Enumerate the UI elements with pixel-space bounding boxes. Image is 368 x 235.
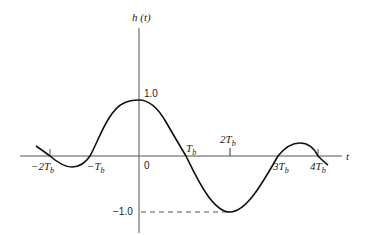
x-tick-label-tb: Tb — [186, 142, 196, 157]
x-axis-label: t — [346, 150, 350, 162]
y-axis-label: h (t) — [132, 11, 151, 24]
y-tick-label-minus-1: −1.0 — [113, 206, 133, 217]
y-tick-label-1: 1.0 — [144, 88, 158, 99]
impulse-response-diagram: h (t) t 1.0 −1.0 −2Tb −Tb 0 Tb 2Tb 3Tb 4… — [0, 0, 368, 235]
x-tick-label-minus-2tb: −2Tb — [31, 160, 54, 175]
x-tick-label-zero: 0 — [144, 160, 150, 171]
x-tick-label-2tb: 2Tb — [220, 133, 236, 148]
x-tick-label-minus-tb: −Tb — [87, 160, 105, 175]
x-tick-label-4tb: 4Tb — [310, 160, 326, 175]
x-tick-label-3tb: 3Tb — [272, 160, 289, 175]
